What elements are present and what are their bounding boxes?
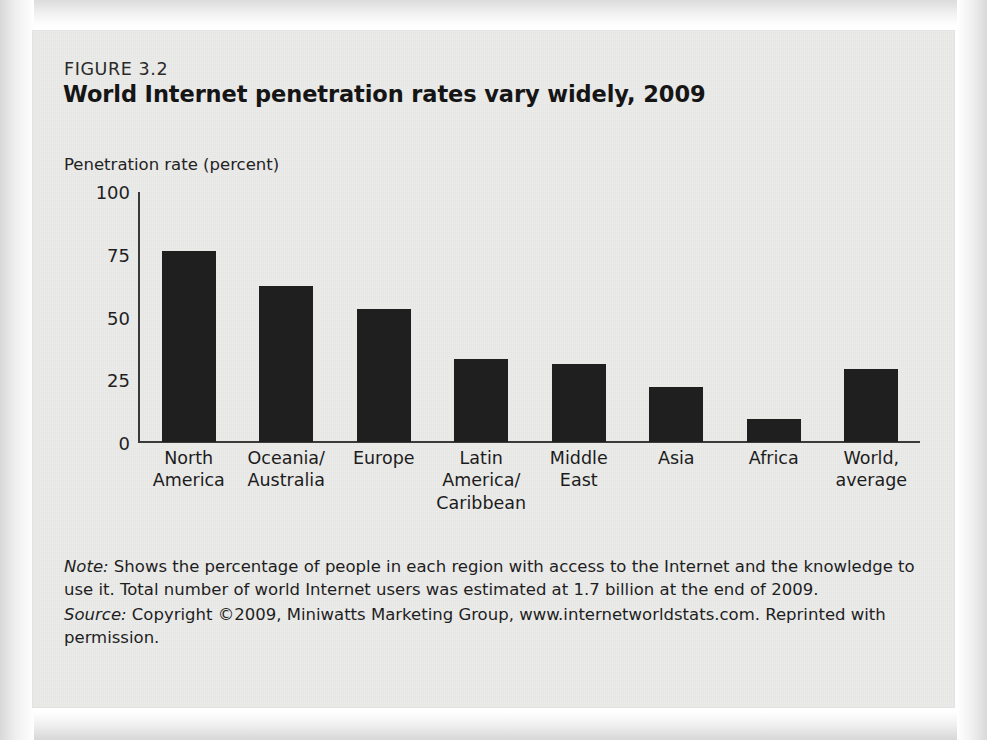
- page-edge-right: [957, 0, 987, 740]
- bar-slot: [530, 181, 627, 442]
- bar-chart-plot: 1007550250 NorthAmericaOceania/Australia…: [64, 181, 924, 561]
- bar[interactable]: [357, 309, 411, 442]
- bar[interactable]: [552, 364, 606, 442]
- bar[interactable]: [259, 286, 313, 442]
- bar-series: [140, 181, 920, 442]
- x-axis-category-label: Europe: [335, 447, 432, 514]
- bar-slot: [433, 181, 530, 442]
- bar[interactable]: [162, 251, 216, 442]
- figure-number: FIGURE 3.2: [64, 59, 168, 79]
- source-paragraph: Source: Copyright ©2009, Miniwatts Marke…: [64, 603, 926, 650]
- x-axis-category-label: Africa: [725, 447, 822, 514]
- figure-card: FIGURE 3.2 World Internet penetration ra…: [33, 31, 954, 707]
- x-axis-category-label: Oceania/Australia: [238, 447, 335, 514]
- bar-slot: [725, 181, 822, 442]
- y-axis-tick-label: 50: [74, 307, 130, 328]
- y-axis-tick-label: 75: [74, 244, 130, 265]
- y-axis-tick-label: 25: [74, 370, 130, 391]
- bar-slot: [140, 181, 237, 442]
- x-axis-category-label: LatinAmerica/Caribbean: [433, 447, 530, 514]
- bar[interactable]: [844, 369, 898, 442]
- x-axis-category-label: Asia: [628, 447, 725, 514]
- y-axis-tick-label: 100: [74, 182, 130, 203]
- scanned-page: FIGURE 3.2 World Internet penetration ra…: [0, 0, 987, 740]
- page-edge-left: [0, 0, 34, 740]
- x-axis-category-label: MiddleEast: [530, 447, 627, 514]
- bar-slot: [238, 181, 335, 442]
- source-text: Copyright ©2009, Miniwatts Marketing Gro…: [64, 605, 886, 647]
- note-paragraph: Note: Shows the percentage of people in …: [64, 555, 926, 602]
- page-edge-bottom: [0, 712, 987, 740]
- source-label: Source:: [64, 605, 127, 624]
- note-label: Note:: [64, 557, 109, 576]
- bar[interactable]: [747, 419, 801, 442]
- bar[interactable]: [649, 387, 703, 442]
- bar-slot: [628, 181, 725, 442]
- y-axis-label: Penetration rate (percent): [64, 155, 279, 174]
- figure-footnotes: Note: Shows the percentage of people in …: [64, 555, 926, 650]
- bar-slot: [335, 181, 432, 442]
- x-axis-category-label: NorthAmerica: [140, 447, 237, 514]
- figure-title: World Internet penetration rates vary wi…: [63, 81, 706, 107]
- y-axis-ticks: 1007550250: [64, 181, 130, 443]
- page-edge-top: [0, 0, 987, 26]
- x-axis-category-labels: NorthAmericaOceania/AustraliaEuropeLatin…: [140, 447, 920, 514]
- x-axis-category-label: World,average: [823, 447, 920, 514]
- bar[interactable]: [454, 359, 508, 442]
- bar-slot: [823, 181, 920, 442]
- y-axis-tick-label: 0: [74, 433, 130, 454]
- note-text: Shows the percentage of people in each r…: [64, 557, 915, 599]
